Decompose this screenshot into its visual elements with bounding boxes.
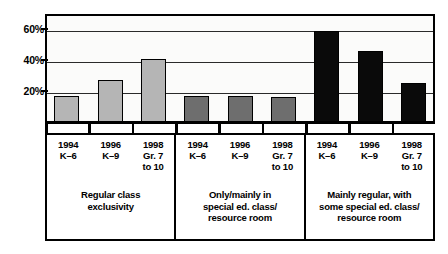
bar <box>141 59 166 122</box>
legend-group-title: Regular classexclusivity <box>47 181 174 239</box>
legend-year-label: 1994 <box>47 139 89 150</box>
bar <box>54 96 79 122</box>
bar <box>401 83 426 122</box>
legend-year-label: 1996 <box>348 139 390 150</box>
bar-chart-figure: 60%40%20% 1994K–61996K–91998Gr. 7to 10Re… <box>0 0 448 254</box>
legend-grade-label: K–9 <box>89 150 131 161</box>
legend-grade-label: K–6 <box>47 150 89 161</box>
plot-area <box>45 14 435 122</box>
legend-group: 1994K–61996K–91998Gr. 7to 10Regular clas… <box>47 135 174 239</box>
y-axis-tick-mark <box>41 59 48 61</box>
y-axis-tick-mark <box>41 28 48 30</box>
category-legend-table: 1994K–61996K–91998Gr. 7to 10Regular clas… <box>45 133 435 241</box>
x-axis-tick-mark <box>175 124 178 133</box>
legend-grade-label: K–9 <box>348 150 390 161</box>
legend-grade-label: Gr. 7to 10 <box>391 150 433 172</box>
legend-year-label: 1996 <box>89 139 131 150</box>
y-axis-tick-mark <box>41 90 48 92</box>
legend-year-cell: 1994K–6 <box>47 139 89 181</box>
x-axis-tick-mark <box>88 124 91 133</box>
legend-group-years: 1994K–61996K–91998Gr. 7to 10 <box>306 135 433 181</box>
bar <box>314 31 339 122</box>
legend-group: 1994K–61996K–91998Gr. 7to 10Mainly regul… <box>304 135 433 239</box>
legend-year-cell: 1996K–9 <box>89 139 131 181</box>
x-axis-tick-mark <box>348 124 351 133</box>
legend-year-label: 1994 <box>176 139 218 150</box>
x-axis-tick-mark <box>132 124 135 133</box>
y-axis-labels: 60%40%20% <box>0 0 44 254</box>
legend-year-cell: 1994K–6 <box>306 139 348 181</box>
legend-grade-label: Gr. 7to 10 <box>261 150 303 172</box>
legend-group-title: Mainly regular, withsome special ed. cla… <box>306 181 433 239</box>
legend-year-label: 1994 <box>306 139 348 150</box>
legend-grade-label: Gr. 7to 10 <box>132 150 174 172</box>
legend-year-cell: 1994K–6 <box>176 139 218 181</box>
y-axis-tick-label: 60% <box>2 23 44 35</box>
bar <box>98 80 123 122</box>
legend-year-label: 1998 <box>261 139 303 150</box>
legend-year-label: 1998 <box>132 139 174 150</box>
x-axis-tick-mark <box>218 124 221 133</box>
legend-year-label: 1998 <box>391 139 433 150</box>
x-axis-tick-mark <box>392 124 395 133</box>
legend-group: 1994K–61996K–91998Gr. 7to 10Only/mainly … <box>174 135 303 239</box>
legend-year-cell: 1998Gr. 7to 10 <box>261 139 303 181</box>
x-axis-tick-mark <box>45 124 48 133</box>
legend-year-label: 1996 <box>219 139 261 150</box>
legend-grade-label: K–6 <box>306 150 348 161</box>
bar <box>228 96 253 122</box>
y-axis-tick-label: 40% <box>2 54 44 66</box>
legend-group-years: 1994K–61996K–91998Gr. 7to 10 <box>47 135 174 181</box>
bar <box>358 51 383 122</box>
x-axis-tick-mark <box>305 124 308 133</box>
legend-year-cell: 1998Gr. 7to 10 <box>132 139 174 181</box>
legend-grade-label: K–9 <box>219 150 261 161</box>
legend-year-cell: 1998Gr. 7to 10 <box>391 139 433 181</box>
y-axis-tick-label: 20% <box>2 85 44 97</box>
bar <box>271 97 296 122</box>
legend-group-years: 1994K–61996K–91998Gr. 7to 10 <box>176 135 303 181</box>
x-axis-tick-mark <box>262 124 265 133</box>
legend-group-title: Only/mainly inspecial ed. class/resource… <box>176 181 303 239</box>
legend-grade-label: K–6 <box>176 150 218 161</box>
legend-year-cell: 1996K–9 <box>219 139 261 181</box>
bar <box>184 96 209 122</box>
legend-year-cell: 1996K–9 <box>348 139 390 181</box>
